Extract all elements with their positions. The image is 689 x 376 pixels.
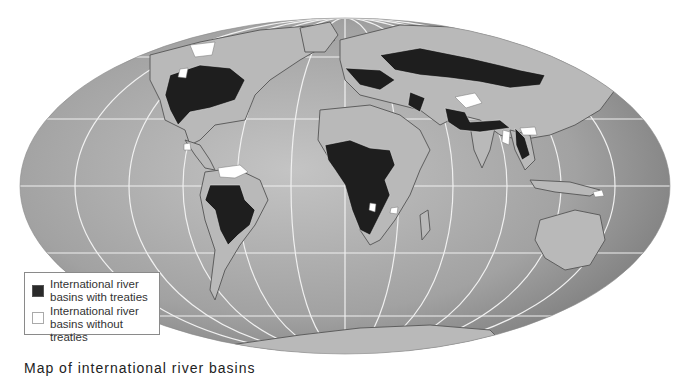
map-caption: Map of international river basins	[24, 360, 255, 376]
legend-label-line1: International river	[50, 305, 139, 317]
legend-label-line1: International river	[50, 278, 139, 290]
legend-label-line2: basins with treaties	[50, 291, 148, 303]
map-legend: International river basins with treaties…	[24, 272, 160, 335]
legend-swatch-dark	[32, 285, 44, 297]
legend-label-line2: basins without treaties	[50, 318, 123, 343]
legend-item-without-treaties: International river basins without treat…	[32, 305, 160, 344]
legend-item-with-treaties: International river basins with treaties	[32, 278, 160, 304]
legend-swatch-light	[32, 312, 44, 324]
